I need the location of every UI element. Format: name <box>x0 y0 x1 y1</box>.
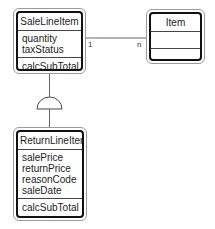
generalization-arrow-icon <box>37 97 62 109</box>
operation: calcSubTotal <box>22 61 77 71</box>
operations-section: calcSubTotal <box>18 199 82 214</box>
attribute: reasonCode <box>22 174 78 185</box>
multiplicity-from: 1 <box>88 40 92 49</box>
class-name: ReturnLineItem <box>18 132 82 150</box>
class-sale-line-item[interactable]: SaleLineItem quantity taxStatus calcSubT… <box>13 8 86 74</box>
class-item[interactable]: Item <box>146 9 205 64</box>
attributes-section <box>151 32 200 49</box>
class-return-line-item[interactable]: ReturnLineItem salePrice returnPrice rea… <box>13 127 87 221</box>
operation: calcSubTotal <box>22 202 78 213</box>
attribute: quantity <box>22 33 77 44</box>
attribute: returnPrice <box>22 163 78 174</box>
multiplicity-to: n <box>137 40 141 49</box>
operations-section <box>151 49 200 61</box>
class-name: SaleLineItem <box>18 13 81 31</box>
attribute: saleDate <box>22 185 78 196</box>
attributes-section: salePrice returnPrice reasonCode saleDat… <box>18 150 82 199</box>
operations-section: calcSubTotal <box>18 58 81 71</box>
attributes-section: quantity taxStatus <box>18 31 81 58</box>
class-name: Item <box>151 14 200 32</box>
attribute: salePrice <box>22 152 78 163</box>
attribute: taxStatus <box>22 44 77 55</box>
